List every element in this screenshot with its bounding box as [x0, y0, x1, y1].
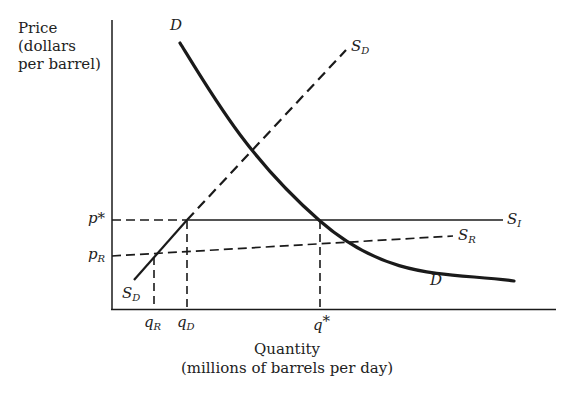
sd-bottom-main: S: [122, 284, 132, 302]
y-axis-label-line2: (dollars: [18, 37, 101, 55]
sr-sub: R: [468, 234, 476, 245]
x-axis-label-line2: (millions of barrels per day): [0, 359, 574, 378]
qR-sub: R: [154, 321, 162, 332]
price-tick-pR: pR: [88, 246, 105, 267]
sd-top-main: S: [351, 37, 361, 55]
supply-domestic-curve: [187, 50, 346, 220]
qD-sub: D: [187, 321, 195, 332]
price-tick-pstar: p*: [88, 210, 105, 227]
supply-import-label: SI: [507, 211, 521, 232]
pR-sub: R: [98, 253, 106, 264]
y-axis-label-line1: Price: [18, 19, 101, 37]
supply-domestic-solid-segment: [134, 220, 187, 280]
qstar-main: q: [313, 316, 323, 334]
y-axis-label-line3: per barrel): [18, 55, 101, 73]
x-axis-label: Quantity (millions of barrels per day): [0, 340, 574, 378]
si-sub: I: [517, 218, 521, 229]
quantity-tick-qD: qD: [177, 314, 195, 335]
pstar-sup: *: [98, 209, 106, 227]
qstar-sup: *: [323, 312, 331, 330]
demand-label-top: D: [170, 17, 182, 34]
demand-label-bottom: D: [430, 272, 442, 289]
supply-domestic-label-bottom: SD: [122, 285, 140, 306]
sr-main: S: [458, 226, 468, 244]
si-main: S: [507, 210, 517, 228]
sd-bottom-sub: D: [132, 292, 140, 303]
qD-main: q: [177, 313, 187, 331]
pR-main: p: [88, 245, 98, 263]
qR-main: q: [144, 313, 154, 331]
supply-restricted-label: SR: [458, 227, 476, 248]
y-axis-label: Price (dollars per barrel): [18, 19, 101, 73]
pstar-main: p: [88, 209, 98, 227]
sd-top-sub: D: [361, 45, 369, 56]
supply-domestic-label-top: SD: [351, 38, 369, 59]
oil-market-diagram: Price (dollars per barrel) Quantity (mil…: [0, 0, 574, 394]
x-axis-label-line1: Quantity: [0, 340, 574, 359]
quantity-tick-qR: qR: [144, 314, 161, 335]
quantity-tick-qstar: q*: [313, 313, 330, 334]
